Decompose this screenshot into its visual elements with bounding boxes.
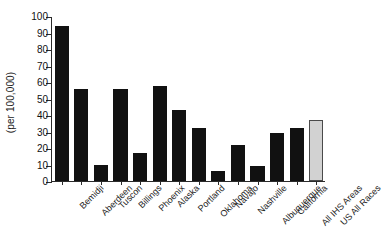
bar-slot	[287, 16, 307, 181]
bar-all-ihs-areas	[290, 128, 304, 181]
x-axis-line	[51, 181, 325, 182]
y-tick-label: 10	[37, 160, 48, 171]
bar-slot	[248, 16, 268, 181]
x-tick-label: Bemidji	[77, 183, 105, 211]
bar-slot	[189, 16, 209, 181]
bar-slot	[209, 16, 229, 181]
bar-tuscon	[94, 165, 108, 181]
bar-navajo	[211, 171, 225, 181]
bar-alaska	[153, 86, 167, 181]
bar-slot	[228, 16, 248, 181]
bar-nashville	[231, 145, 245, 181]
bar-slot	[91, 16, 111, 181]
bar-albuquerque	[250, 166, 264, 181]
y-tick-label: 70	[37, 61, 48, 72]
bar-billings	[113, 89, 127, 181]
y-tick-label: 20	[37, 143, 48, 154]
bar-slot	[267, 16, 287, 181]
bar-slot	[52, 16, 72, 181]
y-tick-label: 30	[37, 127, 48, 138]
bar-bemidji	[55, 26, 69, 181]
bar-portland	[172, 110, 186, 181]
y-axis-title: (per 100,000)	[2, 42, 20, 162]
y-tick-label: 60	[37, 77, 48, 88]
x-axis-labels: BemidjiAberdeenTusconBillingsPhoenixAlas…	[51, 183, 332, 234]
bar-slot	[306, 16, 326, 181]
y-tick-label: 40	[37, 110, 48, 121]
y-axis-title-text: (per 100,000)	[6, 71, 17, 132]
bar-phoenix	[133, 153, 147, 181]
bar-slot	[72, 16, 92, 181]
plot-area: 0102030405060708090100	[51, 17, 325, 182]
bar-slot	[111, 16, 131, 181]
x-tick-label: Nashville	[256, 183, 289, 216]
bar-aberdeen	[74, 89, 88, 181]
bar-california	[270, 133, 284, 181]
y-tick-label: 50	[37, 94, 48, 105]
y-tick-label: 100	[31, 11, 48, 22]
bar-slot	[169, 16, 189, 181]
y-tick-label: 90	[37, 28, 48, 39]
bar-slot	[130, 16, 150, 181]
bar-us-all-races	[309, 120, 323, 181]
y-tick-label: 80	[37, 44, 48, 55]
y-tick-label: 0	[42, 176, 48, 187]
bars-layer	[52, 17, 325, 181]
bar-slot	[150, 16, 170, 181]
bar-oklahoma	[192, 128, 206, 181]
